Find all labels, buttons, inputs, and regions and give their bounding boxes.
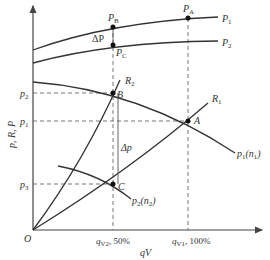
- x-axis-title: qV: [140, 247, 153, 258]
- origin-label: O: [24, 233, 31, 244]
- label-PA: PA: [182, 3, 194, 16]
- label-delta-p: Δp: [120, 142, 132, 153]
- label-PC: PC: [115, 47, 127, 60]
- label-qv1: qV1, 100%: [172, 236, 211, 248]
- y-axis-title: p, R, P: [6, 121, 17, 149]
- power-curve-p1: [33, 17, 218, 50]
- point-B: [111, 91, 116, 96]
- fan-regulation-diagram: PB PC PA ΔP P1 P2 p2 p1 p3 p, R, P B A C…: [0, 0, 270, 260]
- label-p1: p1: [19, 116, 29, 129]
- resistance-curve-r2: [33, 80, 120, 230]
- label-PB: PB: [107, 12, 119, 25]
- point-PC: [111, 43, 116, 48]
- point-A: [186, 119, 191, 124]
- point-PA: [186, 16, 191, 21]
- label-qv2: qV2, 50%: [96, 236, 131, 248]
- label-p3: p3: [19, 179, 29, 192]
- label-delta-P: ΔP: [92, 33, 104, 44]
- label-p1-n1: p1(n1): [236, 148, 261, 161]
- label-p2: p2: [19, 88, 29, 101]
- point-PB: [111, 25, 116, 30]
- label-R1: R1: [211, 93, 222, 106]
- label-C: C: [118, 181, 125, 192]
- label-R2: R2: [124, 75, 135, 88]
- point-C: [111, 182, 116, 187]
- label-B: B: [117, 89, 123, 100]
- label-p2-n2: p2(n2): [131, 195, 156, 208]
- label-A: A: [193, 115, 201, 126]
- label-P1-curve: P1: [221, 13, 232, 26]
- label-P2-curve: P2: [221, 37, 232, 50]
